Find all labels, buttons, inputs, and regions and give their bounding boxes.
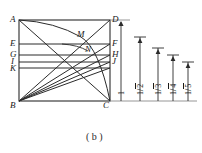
vertex-label-d: D: [112, 15, 119, 24]
point-label-k: K: [10, 64, 16, 73]
radical-2: 2: [135, 83, 145, 89]
vertex-label-b: B: [10, 101, 16, 110]
measure-arrow-one-over-root-2: [138, 38, 143, 43]
vertex-label-a: A: [10, 15, 16, 24]
measure-arrow-one-over-root-3: [156, 49, 161, 54]
point-label-e: E: [10, 39, 16, 48]
measure-label-unit: 1: [118, 91, 126, 95]
point-label-m: M: [77, 30, 85, 39]
point-label-f: F: [112, 39, 118, 48]
measure-arrow-one-over-root-5: [186, 63, 191, 68]
measure-arrow-unit: [118, 21, 123, 26]
point-label-n: N: [85, 45, 91, 54]
point-label-j: J: [112, 57, 116, 66]
radical-3: 3: [153, 83, 163, 89]
measure-arrow-one-over-root-4: [171, 56, 176, 61]
measure-label-one-over-root-2: 1/2: [137, 83, 145, 95]
figure-caption: ( b ): [86, 131, 103, 142]
measure-label-one-over-root-3: 1/3: [155, 83, 163, 95]
vertex-label-c: C: [103, 101, 109, 110]
measure-label-one-over-root-4: 1/4: [170, 83, 178, 95]
measure-label-one-over-root-5: 1/5: [185, 83, 193, 95]
radical-4: 4: [168, 83, 178, 89]
radical-5: 5: [183, 83, 193, 89]
geometry-figure: A D B C E G I K F H J M N 1 1/2 1/3 1/4 …: [0, 0, 202, 153]
